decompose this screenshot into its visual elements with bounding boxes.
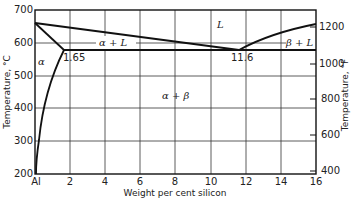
annotation-1-65: 1.65 (63, 52, 85, 63)
svg-text:8: 8 (172, 176, 178, 187)
svg-text:500: 500 (14, 70, 33, 81)
svg-text:Al: Al (31, 176, 41, 187)
svg-text:10: 10 (205, 176, 218, 187)
svg-text:16: 16 (310, 176, 323, 187)
x-axis-title: Weight per cent silicon (124, 188, 227, 198)
left-axis-labels: 200 300 400 500 600 700 (14, 4, 33, 179)
svg-text:400: 400 (14, 102, 33, 113)
liquidus-alpha (35, 23, 239, 50)
svg-text:14: 14 (275, 176, 288, 187)
svg-text:600: 600 (14, 37, 33, 48)
svg-text:400: 400 (321, 165, 340, 176)
solvus-alpha (36, 50, 64, 174)
svg-text:6: 6 (137, 176, 143, 187)
svg-text:1200: 1200 (319, 21, 344, 32)
y-axis-title-right: Temperature, °F (340, 59, 350, 132)
phase-label-alpha: α (38, 56, 45, 67)
phase-label-alpha-l: α + L (99, 37, 127, 48)
svg-text:300: 300 (14, 135, 33, 146)
svg-text:800: 800 (321, 93, 340, 104)
svg-text:200: 200 (14, 168, 33, 179)
svg-text:2: 2 (67, 176, 73, 187)
al-si-phase-diagram: L α + L β + L α α + β 1.65 11.6 200 300 … (0, 0, 353, 204)
svg-text:4: 4 (102, 176, 108, 187)
svg-text:12: 12 (240, 176, 253, 187)
svg-text:700: 700 (14, 4, 33, 15)
svg-text:600: 600 (321, 129, 340, 140)
annotation-11-6: 11.6 (231, 52, 253, 63)
x-axis-labels: Al 2 4 6 8 10 12 14 16 (31, 176, 322, 187)
phase-label-beta-l: β + L (285, 37, 314, 48)
phase-label-l: L (216, 19, 224, 30)
phase-label-alpha-beta: α + β (162, 90, 189, 101)
y-axis-title-left: Temperature, °C (2, 55, 12, 130)
